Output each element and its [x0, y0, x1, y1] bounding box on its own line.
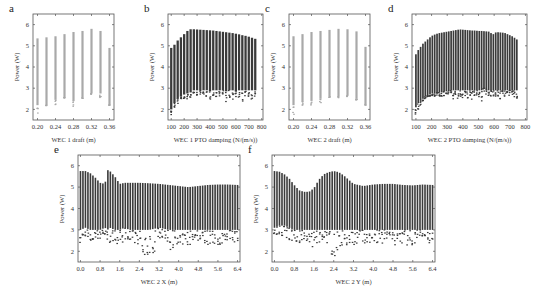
- panel-c: 234560.200.240.280.320.36cWEC 2 draft (m…: [289, 14, 370, 120]
- x-tick-label: 4.0: [175, 265, 183, 272]
- x-tick-label: 0.36: [104, 123, 116, 130]
- data-points: [415, 29, 518, 114]
- x-tick-label: 0.20: [32, 123, 43, 130]
- x-tick-label: 700: [505, 123, 515, 130]
- x-tick-label: 4.8: [389, 265, 397, 272]
- x-tick-label: 0.28: [68, 123, 79, 130]
- x-tick-label: 6.4: [428, 265, 437, 272]
- panel-d: 23456100200300400500600700800dWEC 2 PTO …: [412, 14, 527, 120]
- y-tick-label: 2: [405, 106, 408, 113]
- x-axis-label: WEC 2 PTO damping (N/(m/s)): [412, 136, 527, 143]
- x-tick-label: 800: [521, 123, 531, 130]
- panel-e: 234560.00.81.62.43.24.04.85.66.4eWEC 2 X…: [78, 155, 240, 262]
- x-tick-label: 0.8: [96, 265, 104, 272]
- y-tick-label: 6: [161, 21, 165, 28]
- y-tick-label: 2: [282, 106, 285, 113]
- y-tick-label: 3: [405, 84, 408, 91]
- y-tick-label: 5: [26, 42, 29, 49]
- y-tick-label: 5: [265, 183, 268, 190]
- y-tick-label: 2: [161, 106, 164, 113]
- x-tick-label: 0.8: [290, 265, 298, 272]
- y-axis-label: Power (W): [269, 42, 277, 92]
- y-tick-label: 5: [405, 42, 408, 49]
- x-tick-label: 600: [489, 123, 499, 130]
- y-tick-label: 3: [265, 226, 268, 233]
- x-tick-label: 5.6: [214, 265, 223, 272]
- panel-a: 234560.200.240.280.320.36aWEC 1 draft (m…: [33, 14, 114, 120]
- x-tick-label: 300: [192, 123, 202, 130]
- x-tick-label: 0.36: [360, 123, 372, 130]
- x-tick-label: 3.2: [155, 265, 163, 272]
- x-tick-label: 0.0: [270, 265, 278, 272]
- plot-area: 234560.00.81.62.43.24.04.85.66.4: [78, 155, 240, 262]
- plot-area: 23456100200300400500600700800: [168, 14, 263, 120]
- panel-f: 234560.00.81.62.43.24.04.85.66.4fWEC 2 Y…: [272, 155, 435, 262]
- panel-letter: b: [144, 2, 150, 14]
- data-points: [36, 29, 110, 114]
- x-tick-label: 0.0: [76, 265, 84, 272]
- data-points: [292, 29, 366, 115]
- x-tick-label: 4.8: [194, 265, 202, 272]
- y-tick-label: 2: [265, 248, 268, 255]
- x-tick-label: 2.4: [330, 265, 339, 272]
- data-points: [170, 29, 256, 115]
- y-tick-label: 3: [161, 84, 164, 91]
- x-tick-label: 700: [244, 123, 254, 130]
- panel-letter: f: [248, 143, 252, 155]
- y-axis-label: Power (W): [148, 42, 156, 92]
- x-tick-label: 5.6: [409, 265, 418, 272]
- y-tick-label: 4: [71, 205, 75, 212]
- x-tick-label: 4.0: [369, 265, 377, 272]
- panel-b: 23456100200300400500600700800bWEC 1 PTO …: [168, 14, 263, 120]
- y-tick-label: 6: [405, 21, 409, 28]
- x-tick-label: 1.6: [310, 265, 319, 272]
- y-tick-label: 4: [265, 205, 269, 212]
- x-axis-label: WEC 2 X (m): [78, 278, 240, 285]
- x-axis-label: WEC 1 PTO damping (N/(m/s)): [168, 136, 263, 143]
- x-tick-label: 200: [427, 123, 437, 130]
- data-points: [273, 171, 433, 256]
- y-tick-label: 2: [26, 106, 29, 113]
- x-tick-label: 0.28: [324, 123, 335, 130]
- y-tick-label: 4: [405, 63, 409, 70]
- panel-letter: a: [9, 2, 14, 14]
- y-tick-label: 4: [161, 63, 165, 70]
- x-tick-label: 2.4: [135, 265, 144, 272]
- plot-area: 234560.200.240.280.320.36: [289, 14, 370, 120]
- x-tick-label: 100: [166, 123, 176, 130]
- y-tick-label: 5: [282, 42, 285, 49]
- y-tick-label: 6: [71, 162, 75, 169]
- y-axis-label: Power (W): [252, 184, 260, 234]
- x-axis-label: WEC 1 draft (m): [33, 136, 114, 143]
- x-tick-label: 0.24: [50, 123, 62, 130]
- x-tick-label: 6.4: [233, 265, 242, 272]
- y-tick-label: 3: [282, 84, 285, 91]
- y-tick-label: 3: [26, 84, 29, 91]
- x-tick-label: 0.20: [288, 123, 299, 130]
- x-tick-label: 0.32: [342, 123, 353, 130]
- y-tick-label: 3: [71, 226, 74, 233]
- x-tick-label: 200: [179, 123, 189, 130]
- x-tick-label: 0.24: [306, 123, 318, 130]
- y-axis-label: Power (W): [392, 42, 400, 92]
- y-tick-label: 6: [265, 162, 269, 169]
- plot-area: 234560.00.81.62.43.24.04.85.66.4: [272, 155, 435, 262]
- x-tick-label: 500: [474, 123, 484, 130]
- y-axis-label: Power (W): [13, 42, 21, 92]
- x-tick-label: 300: [442, 123, 452, 130]
- y-axis-label: Power (W): [58, 184, 66, 234]
- x-tick-label: 3.2: [349, 265, 357, 272]
- data-points: [79, 170, 238, 255]
- y-tick-label: 2: [71, 248, 74, 255]
- y-tick-label: 4: [26, 63, 30, 70]
- x-axis-label: WEC 2 draft (m): [289, 136, 370, 143]
- y-tick-label: 4: [282, 63, 286, 70]
- plot-area: 234560.200.240.280.320.36: [33, 14, 114, 120]
- x-tick-label: 500: [218, 123, 228, 130]
- panel-letter: d: [388, 2, 394, 14]
- x-tick-label: 400: [205, 123, 215, 130]
- y-tick-label: 5: [71, 183, 74, 190]
- x-tick-label: 400: [458, 123, 468, 130]
- y-tick-label: 6: [282, 21, 286, 28]
- panel-letter: c: [265, 2, 270, 14]
